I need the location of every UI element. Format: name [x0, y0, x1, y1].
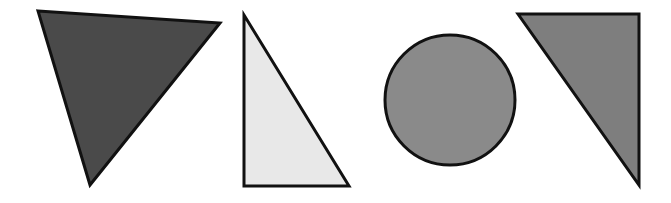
- shapes-svg: [0, 0, 671, 203]
- gray-circle: [385, 35, 515, 165]
- light-right-triangle: [244, 15, 349, 186]
- dark-triangle: [38, 11, 220, 185]
- gray-right-triangle: [518, 14, 639, 185]
- shapes-figure: [0, 0, 671, 203]
